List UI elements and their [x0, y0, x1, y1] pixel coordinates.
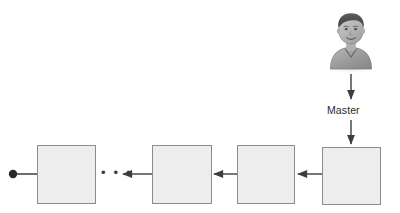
chain-node-2[interactable]: [152, 145, 212, 204]
avatar-eye-right: [354, 28, 357, 30]
chain-node-1[interactable]: [37, 145, 96, 204]
chain-node-4[interactable]: [322, 147, 381, 205]
avatar-ear-right: [362, 28, 366, 34]
master-user-avatar: [325, 13, 377, 74]
chain-node-3[interactable]: [237, 145, 295, 204]
master-connector-label: Master: [327, 104, 360, 116]
chain-terminal-group: [9, 170, 38, 178]
avatar-eye-left: [345, 28, 348, 30]
chain-terminal-dot: [9, 170, 17, 178]
chain-ellipsis: • • •: [101, 168, 133, 178]
avatar-ear-left: [337, 28, 341, 34]
diagram-canvas: • • • Master: [0, 0, 400, 213]
